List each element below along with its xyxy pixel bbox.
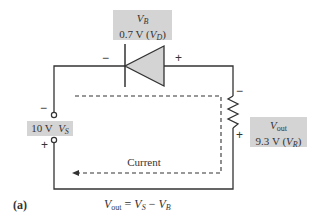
resistor [228, 96, 238, 128]
resistor-voltage-label: Vout 9.3 V (VR) [250, 117, 307, 147]
source-voltage-label: 10 V VS [27, 121, 73, 136]
source-plus-sign: + [41, 138, 48, 152]
equation-minus: − [146, 197, 159, 211]
diode-plus-sign: + [175, 51, 182, 65]
resistor-minus-sign: − [236, 84, 243, 98]
resistor-value-var: V [286, 135, 293, 147]
diode-value-close: ) [162, 28, 166, 40]
circuit-wires [54, 66, 233, 189]
resistor-value: 9.3 V ( [256, 135, 286, 147]
source-minus-sign: − [40, 101, 47, 115]
figure-label: (a) [13, 199, 27, 211]
diode-value: 0.7 V ( [119, 28, 149, 40]
current-arrow-icon [72, 170, 79, 176]
resistor-symbol: V [270, 119, 277, 131]
diode-voltage-label: VB 0.7 V (VD) [113, 10, 172, 40]
resistor-symbol-sub: out [277, 124, 287, 133]
source-value: 10 V [31, 122, 53, 134]
diode-symbol-sub: B [143, 17, 148, 26]
resistor-value-close: ) [298, 135, 302, 147]
equation-lhs-sub: out [111, 203, 121, 212]
diode [125, 44, 164, 87]
current-label: Current [122, 156, 166, 168]
source-terminal-bottom [51, 137, 56, 142]
source-symbol-sub: S [65, 127, 69, 136]
equation-term2: V [158, 197, 165, 211]
source-terminal-top [51, 112, 56, 117]
equation-equals: = [122, 197, 135, 211]
equation-term2-sub: B [166, 203, 171, 212]
equation-term1: V [134, 197, 141, 211]
resistor-plus-sign: + [236, 128, 243, 142]
equation: Vout = VS − VB [104, 198, 171, 214]
diode-minus-sign: − [102, 51, 109, 65]
source-symbol: V [58, 122, 65, 134]
